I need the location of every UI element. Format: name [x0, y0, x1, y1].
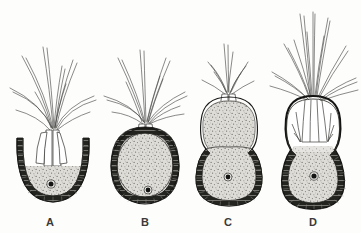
- specimen-d-granule-band: [294, 146, 332, 152]
- specimen-d-nucleus: [311, 173, 316, 178]
- specimen-b-label: B: [141, 216, 149, 228]
- figure-container: A: [0, 0, 361, 233]
- specimen-c-nucleus: [226, 175, 231, 180]
- specimen-a-nucleus: [49, 182, 54, 187]
- specimen-d-label: D: [309, 216, 317, 228]
- specimen-a-label: A: [46, 216, 54, 228]
- specimen-c-label: C: [224, 216, 232, 228]
- illustration-canvas: A: [0, 0, 361, 233]
- specimen-b-nucleus: [146, 188, 151, 193]
